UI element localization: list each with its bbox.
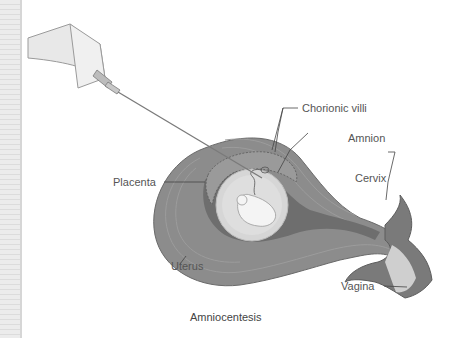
label-chorionic-villi: Chorionic villi bbox=[302, 102, 367, 114]
label-vagina: Vagina bbox=[341, 280, 374, 292]
amniocentesis-illustration bbox=[0, 0, 453, 338]
label-amnion: Amnion bbox=[348, 132, 385, 144]
label-placenta: Placenta bbox=[113, 176, 156, 188]
label-uterus: Uterus bbox=[171, 260, 203, 272]
figure-caption: Amniocentesis bbox=[190, 311, 262, 323]
label-cervix: Cervix bbox=[355, 172, 386, 184]
